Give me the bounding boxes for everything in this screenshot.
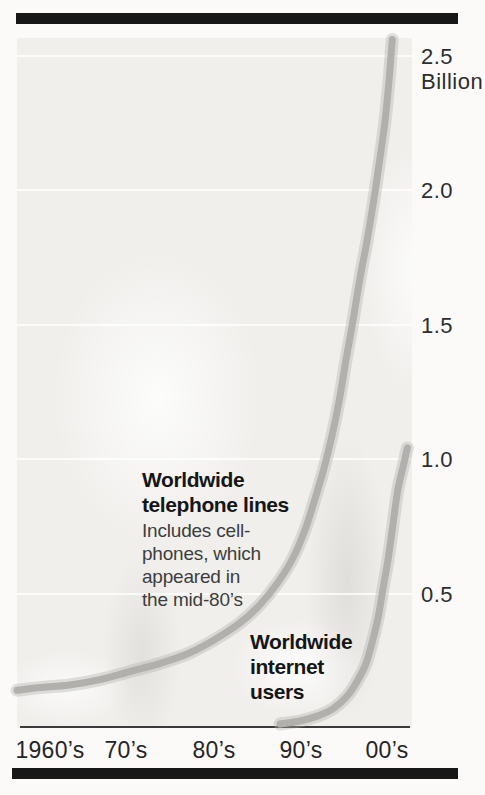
curves-layer bbox=[0, 0, 485, 795]
y-tick-1-0: 1.0 bbox=[421, 447, 453, 472]
x-tick-00s: 00’s bbox=[366, 737, 409, 764]
y-tick-2-5-value: 2.5 bbox=[421, 44, 453, 69]
telephone-lines-caption: Includes cell- phones, which appeared in… bbox=[142, 519, 302, 611]
internet-users-series-label: Worldwide internet users bbox=[250, 629, 380, 704]
figure: Worldwide telephone lines Includes cell-… bbox=[0, 0, 485, 795]
y-axis-unit-label: Billion bbox=[421, 69, 483, 94]
y-tick-2-5: 2.5 Billion bbox=[421, 44, 483, 94]
telephone-lines-series-label: Worldwide telephone lines bbox=[142, 467, 322, 517]
x-tick-90s: 90’s bbox=[280, 737, 323, 764]
x-tick-1960s: 1960’s bbox=[15, 737, 84, 764]
y-tick-1-5: 1.5 bbox=[421, 313, 453, 338]
x-tick-70s: 70’s bbox=[105, 737, 148, 764]
x-tick-80s: 80’s bbox=[193, 737, 236, 764]
y-tick-2-0: 2.0 bbox=[421, 178, 453, 203]
y-tick-0-5: 0.5 bbox=[421, 582, 453, 607]
